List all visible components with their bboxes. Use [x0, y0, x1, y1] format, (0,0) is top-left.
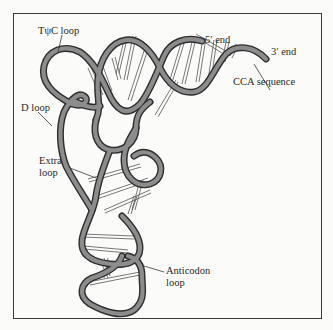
three-prime-end-label: 3′ end — [271, 46, 296, 57]
anticodon-loop-label-line1: Anticodon — [166, 265, 210, 276]
d-loop-label: D loop — [21, 102, 50, 113]
five-prime-end-label: 5′ end — [205, 34, 230, 45]
extra-loop-label-line1: Extra — [39, 155, 62, 166]
anticodon-loop-leader — [144, 266, 164, 272]
cca-sequence-label: CCA sequence — [233, 76, 295, 87]
extra-loop-label-line2: loop — [39, 167, 58, 178]
tpsic-loop-label: TψC loop — [38, 25, 79, 36]
anticodon-loop-label-line2: loop — [166, 277, 185, 288]
d-loop-leader — [38, 112, 52, 126]
